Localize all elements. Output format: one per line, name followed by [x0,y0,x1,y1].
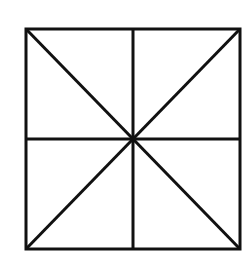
dividing-lines [26,29,240,249]
square-diagram [0,0,248,266]
